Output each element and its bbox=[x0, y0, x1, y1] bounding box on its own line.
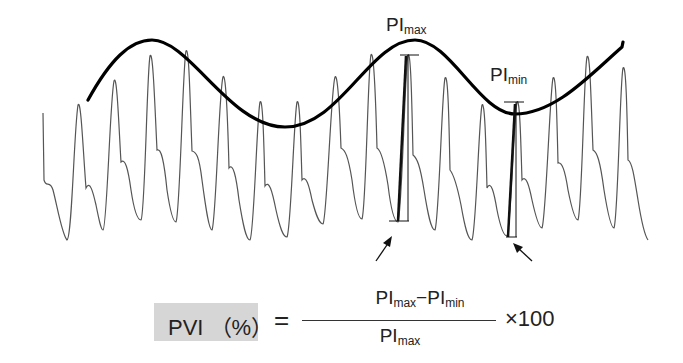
formula-denominator: PImax bbox=[352, 325, 448, 348]
fraction-bar bbox=[302, 320, 496, 321]
pvi-lhs: PVI （%） bbox=[168, 309, 273, 341]
formula-multiplier: ×100 bbox=[505, 306, 555, 332]
pvi-formula: PVI （%） = PImax−PImin PImax ×100 bbox=[0, 0, 683, 363]
equals-sign: = bbox=[274, 305, 289, 336]
formula-numerator: PImax−PImin bbox=[322, 287, 518, 310]
